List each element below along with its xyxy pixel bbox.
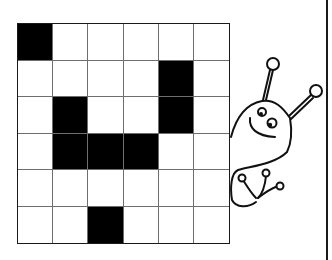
right-antenna-stem <box>289 95 311 116</box>
left-antenna-ball <box>267 58 279 70</box>
snail-creature-icon <box>0 0 332 260</box>
right-antenna-ball <box>310 85 322 97</box>
toe-1 <box>243 180 256 198</box>
